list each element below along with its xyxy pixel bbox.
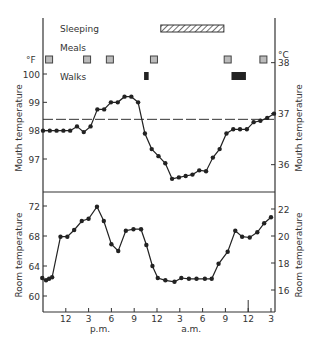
data-point — [265, 116, 269, 120]
series-line — [43, 97, 274, 179]
data-point — [177, 175, 181, 179]
data-point — [80, 219, 84, 223]
room-temperature-series — [40, 205, 273, 284]
data-point — [116, 100, 120, 104]
data-point — [258, 119, 262, 123]
data-point — [50, 275, 54, 279]
data-point — [102, 219, 106, 223]
meal-marker — [84, 56, 91, 63]
data-point — [88, 124, 92, 128]
data-point — [172, 280, 176, 284]
data-point — [224, 131, 228, 135]
data-point — [216, 262, 220, 266]
y-tick-label: 64 — [29, 262, 41, 272]
meal-marker — [224, 56, 231, 63]
data-point — [72, 228, 76, 232]
data-point — [143, 131, 147, 135]
data-point — [48, 128, 52, 132]
data-point — [82, 130, 86, 134]
y-tick-label-right: 22 — [278, 205, 289, 215]
x-tick-label: 3 — [86, 314, 92, 324]
x-tick-label: 12 — [151, 314, 162, 324]
data-point — [210, 277, 214, 281]
meal-marker — [260, 56, 267, 63]
lower-right-ylabel: Room temperature — [294, 212, 304, 298]
data-point — [204, 169, 208, 173]
data-point — [131, 227, 135, 231]
x-tick-label: 3 — [177, 314, 183, 324]
x-tick-label: 3 — [268, 314, 274, 324]
data-point — [163, 161, 167, 165]
y-tick-label: 97 — [29, 155, 40, 165]
data-point — [109, 242, 113, 246]
data-point — [225, 250, 229, 254]
data-point — [65, 235, 69, 239]
data-point — [75, 124, 79, 128]
data-point — [179, 276, 183, 280]
data-point — [194, 277, 198, 281]
data-point — [41, 128, 45, 132]
data-point — [68, 128, 72, 132]
walk-marker — [144, 72, 149, 80]
data-point — [183, 174, 187, 178]
data-point — [124, 229, 128, 233]
data-point — [238, 127, 242, 131]
unit-f-label: °F — [26, 55, 36, 65]
x-tick-label: 12 — [242, 314, 253, 324]
data-point — [116, 249, 120, 253]
data-point — [61, 128, 65, 132]
data-point — [144, 243, 148, 247]
x-tick-label: 6 — [200, 314, 206, 324]
data-point — [262, 221, 266, 225]
data-point — [255, 230, 259, 234]
data-point — [187, 277, 191, 281]
sleeping-label: Sleeping — [60, 24, 99, 34]
y-tick-label-right: 16 — [278, 286, 290, 296]
data-point — [102, 107, 106, 111]
y-tick-label: 98 — [29, 126, 41, 136]
data-point — [245, 127, 249, 131]
lower-left-ylabel: Room temperature — [14, 212, 24, 298]
upper-right-ylabel: Mouth temperature — [294, 84, 304, 172]
data-point — [217, 147, 221, 151]
axes-frame — [43, 18, 275, 312]
data-point — [197, 168, 201, 172]
temperature-figure: Sleeping Meals Walks °F °C 1009998973837… — [0, 0, 316, 351]
y-tick-label: 72 — [29, 202, 40, 212]
data-point — [150, 147, 154, 151]
data-point — [156, 154, 160, 158]
y-tick-label-right: 38 — [278, 58, 290, 68]
y-tick-label-right: 37 — [278, 109, 289, 119]
data-point — [150, 264, 154, 268]
y-tick-label: 60 — [29, 292, 41, 302]
data-point — [163, 278, 167, 282]
data-point — [248, 235, 252, 239]
series-line — [42, 207, 271, 282]
data-point — [136, 100, 140, 104]
y-tick-label: 100 — [23, 70, 40, 80]
data-point — [122, 94, 126, 98]
data-point — [156, 276, 160, 280]
walk-marker — [231, 72, 245, 80]
data-point — [233, 229, 237, 233]
axis-ticks: 1009998973837367268646022201816123691236… — [23, 58, 290, 324]
upper-left-ylabel: Mouth temperature — [14, 84, 24, 172]
data-point — [203, 277, 207, 281]
data-point — [129, 94, 133, 98]
meals-label: Meals — [60, 43, 86, 53]
am-label: a.m. — [181, 324, 201, 334]
meal-marker — [46, 56, 53, 63]
pm-label: p.m. — [90, 324, 110, 334]
y-tick-label: 68 — [29, 232, 41, 242]
data-point — [109, 100, 113, 104]
sleeping-bar — [161, 25, 224, 32]
x-tick-label: 9 — [131, 314, 137, 324]
data-point — [211, 155, 215, 159]
data-point — [58, 235, 62, 239]
data-point — [95, 107, 99, 111]
data-point — [231, 127, 235, 131]
x-tick-label: 9 — [223, 314, 229, 324]
data-point — [190, 172, 194, 176]
data-point — [54, 128, 58, 132]
x-tick-label: 6 — [109, 314, 115, 324]
